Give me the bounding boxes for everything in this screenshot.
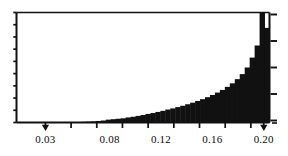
histogram-bar — [205, 97, 210, 122]
x-axis-tick-label: 0.03 — [35, 133, 55, 145]
histogram-bar — [240, 74, 245, 122]
histogram-bar — [210, 95, 215, 123]
histogram-bar — [220, 90, 225, 123]
histogram-bar — [175, 107, 180, 122]
histogram-bar — [255, 46, 260, 123]
histogram-bar — [180, 106, 185, 123]
histogram-bar — [141, 115, 146, 122]
histogram-bar — [185, 104, 190, 122]
histogram-bar — [145, 114, 150, 123]
histogram-bar — [215, 93, 220, 123]
histogram-bar — [245, 68, 250, 123]
histogram-bar — [260, 13, 265, 123]
histogram-bar — [170, 108, 175, 122]
histogram-bar — [165, 110, 170, 123]
histogram-bar — [195, 101, 200, 123]
x-axis-tick-label: 0.12 — [151, 133, 171, 145]
histogram-bar — [230, 83, 235, 122]
histogram-bar — [190, 103, 195, 123]
x-axis-tick-label: 0.16 — [202, 133, 222, 145]
histogram-bar — [150, 113, 155, 122]
histogram-bar — [235, 79, 240, 122]
histogram-bar — [200, 99, 205, 122]
histogram-bar — [136, 116, 141, 123]
histogram-bar — [250, 58, 255, 123]
histogram-figure: 0.030.080.120.160.20 — [0, 0, 288, 156]
histogram-bar — [225, 87, 230, 123]
histogram-bar — [160, 111, 165, 123]
x-axis-tick-label: 0.20 — [254, 133, 274, 145]
x-axis-tick-label: 0.08 — [100, 133, 120, 145]
histogram-bar — [155, 112, 160, 123]
